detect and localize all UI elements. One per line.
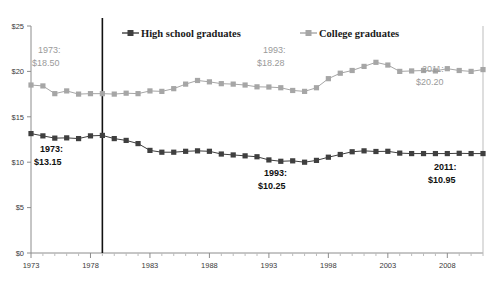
- y-tick-label: $0: [16, 249, 24, 258]
- y-tick-label: $10: [11, 158, 24, 167]
- annotation-year: 1993:: [264, 168, 287, 178]
- data-point-marker: [40, 83, 45, 88]
- annotation-year: 2011:: [422, 64, 444, 74]
- data-point-marker: [254, 154, 259, 159]
- data-point-marker: [373, 60, 378, 65]
- annotation-hs-2011: 2011:$10.95: [428, 162, 457, 185]
- data-point-marker: [40, 133, 45, 138]
- data-point-marker: [243, 82, 248, 87]
- data-point-marker: [373, 149, 378, 154]
- data-point-marker: [124, 138, 129, 143]
- data-point-marker: [314, 158, 319, 163]
- data-point-marker: [480, 67, 485, 72]
- data-point-marker: [302, 160, 307, 165]
- data-point-marker: [100, 91, 105, 96]
- x-tick-label: 1998: [320, 261, 337, 270]
- data-point-marker: [52, 136, 57, 141]
- data-point-marker: [183, 149, 188, 154]
- legend-label: High school graduates: [141, 28, 241, 39]
- x-tick-label: 1978: [82, 261, 99, 270]
- data-point-marker: [433, 151, 438, 156]
- data-point-marker: [124, 91, 129, 96]
- data-point-marker: [338, 71, 343, 76]
- data-point-marker: [207, 79, 212, 84]
- data-point-marker: [469, 151, 474, 156]
- data-point-marker: [76, 136, 81, 141]
- data-point-marker: [207, 149, 212, 154]
- data-point-marker: [397, 151, 402, 156]
- data-point-marker: [231, 152, 236, 157]
- data-point-marker: [302, 89, 307, 94]
- data-point-marker: [254, 84, 259, 89]
- legend-marker: [306, 30, 312, 36]
- data-point-marker: [409, 68, 414, 73]
- data-point-marker: [112, 92, 117, 97]
- data-point-marker: [100, 133, 105, 138]
- data-point-marker: [338, 152, 343, 157]
- x-tick-label: 1988: [201, 261, 218, 270]
- annotation-value: $18.28: [257, 58, 285, 68]
- data-point-marker: [266, 84, 271, 89]
- data-point-marker: [457, 68, 462, 73]
- data-point-marker: [243, 153, 248, 158]
- data-point-marker: [397, 69, 402, 74]
- annotation-value: $20.20: [416, 77, 444, 87]
- data-point-marker: [88, 133, 93, 138]
- data-point-marker: [159, 89, 164, 94]
- data-point-marker: [385, 149, 390, 154]
- data-point-marker: [28, 131, 33, 136]
- x-tick-label: 1973: [23, 261, 40, 270]
- data-point-marker: [445, 66, 450, 71]
- data-point-marker: [64, 88, 69, 93]
- data-point-marker: [361, 64, 366, 69]
- data-point-marker: [171, 150, 176, 155]
- y-axis-tick-labels: $0$5$10$15$20$25: [11, 22, 31, 258]
- chart-legend: High school graduatesCollege graduates: [122, 28, 399, 39]
- data-point-marker: [88, 91, 93, 96]
- data-point-marker: [135, 91, 140, 96]
- annotation-year: 1993:: [263, 45, 286, 55]
- data-point-marker: [147, 88, 152, 93]
- y-tick-label: $5: [16, 203, 24, 212]
- data-point-marker: [480, 151, 485, 156]
- y-tick-label: $20: [11, 67, 24, 76]
- data-point-marker: [112, 136, 117, 141]
- data-point-marker: [409, 151, 414, 156]
- data-point-marker: [278, 85, 283, 90]
- data-point-marker: [290, 158, 295, 163]
- legend-label: College graduates: [319, 28, 399, 39]
- legend-item: College graduates: [300, 28, 399, 39]
- data-point-marker: [361, 148, 366, 153]
- y-tick-label: $15: [11, 113, 24, 122]
- data-point-marker: [231, 82, 236, 87]
- annotation-col-1993: 1993:$18.28: [257, 45, 286, 68]
- x-tick-label: 2003: [379, 261, 396, 270]
- chart-container: $0$5$10$15$20$25 19731978198319881993199…: [0, 0, 498, 285]
- annotation-col-2011: 2011:$20.20: [416, 64, 444, 87]
- data-point-marker: [183, 82, 188, 87]
- data-series-group: [28, 60, 485, 165]
- annotation-value: $10.25: [258, 181, 286, 191]
- annotation-value: $10.95: [428, 175, 456, 185]
- chart-annotations: 1973:$13.151993:$10.252011:$10.951973:$1…: [32, 45, 457, 191]
- data-point-marker: [171, 86, 176, 91]
- data-point-marker: [290, 88, 295, 93]
- data-point-marker: [64, 135, 69, 140]
- data-point-marker: [445, 151, 450, 156]
- data-point-marker: [326, 155, 331, 160]
- data-point-marker: [326, 76, 331, 81]
- data-point-marker: [76, 92, 81, 97]
- legend-marker: [128, 30, 134, 36]
- data-point-marker: [278, 159, 283, 164]
- annotation-year: 1973:: [38, 45, 61, 55]
- line-chart: $0$5$10$15$20$25 19731978198319881993199…: [0, 0, 498, 285]
- data-point-marker: [469, 69, 474, 74]
- annotation-hs-1973: 1973:$13.15: [34, 144, 63, 167]
- data-point-marker: [219, 151, 224, 156]
- legend-item: High school graduates: [122, 28, 241, 39]
- data-point-marker: [147, 148, 152, 153]
- data-point-marker: [421, 151, 426, 156]
- data-point-marker: [52, 91, 57, 96]
- x-tick-label: 1983: [142, 261, 159, 270]
- annotation-year: 1973:: [40, 144, 63, 154]
